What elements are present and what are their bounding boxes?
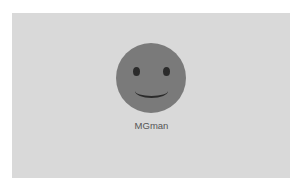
left-eye-icon — [133, 67, 140, 76]
mouth-icon — [135, 91, 168, 98]
username-label: MGman — [0, 120, 303, 131]
right-eye-icon — [163, 67, 170, 76]
avatar[interactable] — [116, 43, 186, 113]
